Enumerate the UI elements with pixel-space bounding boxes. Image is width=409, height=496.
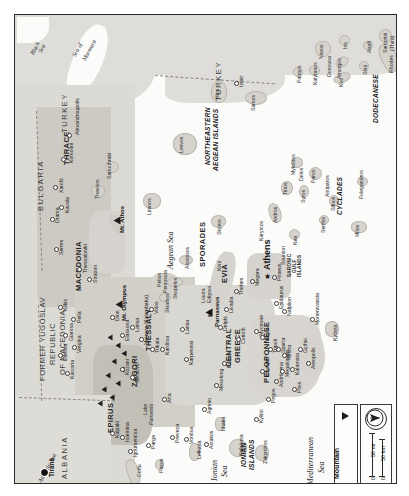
island-label-andros: Andros xyxy=(273,207,278,223)
city-label-nafplion: Nafplion xyxy=(287,297,292,316)
island-label-limnos: Limnos xyxy=(147,198,152,215)
city-label-epidaurus: Epidaurus xyxy=(279,286,284,309)
island-label-paros: Paros xyxy=(311,169,316,183)
capital-dot-tirana xyxy=(41,469,48,476)
city-label-karditsa: Karditsa xyxy=(165,336,170,355)
city-dot-alexandroupolis xyxy=(67,133,72,138)
peak-label-mt-olympus: Mt. Olympus xyxy=(121,285,127,321)
island-label-kimi: Kimi xyxy=(217,261,222,271)
island-label-kalymnos: Kalymnos xyxy=(313,62,318,85)
island-label-serifos: Serifos xyxy=(321,217,326,233)
city-label-kilkis: Kilkis xyxy=(63,299,68,311)
city-label-stratoni: Stratoni xyxy=(93,265,98,283)
city-label-edessa: Edessa xyxy=(63,344,68,361)
city-label-ioannina: Ioannina xyxy=(125,422,130,442)
city-label-astakos: Astakos xyxy=(209,431,214,449)
city-label-ithaka: Ithaka xyxy=(221,417,226,431)
island-label-skopelos: Skopelos xyxy=(173,278,178,299)
city-label-athens: Athens xyxy=(263,239,272,270)
city-label-monemvassia: Monemvassia xyxy=(315,293,320,325)
city-label-gythio: Gythio xyxy=(303,338,308,353)
region-label-ne-aegean-2: AEGEAN ISLANDS xyxy=(213,109,220,171)
island-label-skiathos: Skiathos xyxy=(165,293,170,313)
island-label-sifnos: Sifnos xyxy=(331,197,336,211)
island-label-patmos: Patmos xyxy=(297,65,302,83)
mountain-pindus-icon-10 xyxy=(98,401,103,407)
city-label-piraeus: Piraeus xyxy=(277,263,282,281)
city-label-elassona: Elassona xyxy=(125,320,130,341)
water-label-ionian-sea-1: Ionian xyxy=(211,460,219,481)
city-label-igoumenitsa: Igoumenitsa xyxy=(133,429,138,457)
city-label-giantsa: Giantsa xyxy=(69,323,74,341)
city-label-zakynthos: Zakynthos xyxy=(263,440,268,464)
city-label-lefkada: Lefkada xyxy=(197,441,202,459)
island-label-thira: (Thira) xyxy=(390,36,395,51)
country-label-bulgaria: BULGARIA xyxy=(37,160,45,211)
city-label-olympia: Olympia xyxy=(265,357,270,376)
city-label-kastoria: Kastoria xyxy=(70,360,75,379)
mountain-pindus-icon-2 xyxy=(116,343,121,349)
peak-label-mt-athos: Mt. Athos xyxy=(119,206,125,233)
city-label-kavala: Kavala xyxy=(65,197,70,213)
city-label-mesolong: Mesolong xyxy=(219,369,224,392)
scale-label-km: 50 km xyxy=(380,446,386,461)
city-label-kyllini: Kyllini xyxy=(259,409,264,423)
island-label-samothraki: Samothraki xyxy=(107,153,112,179)
capital-star-athens: ★ xyxy=(264,273,271,280)
city-label-lamia: Lamia xyxy=(185,320,190,334)
city-label-thebes: Thebes xyxy=(239,278,244,295)
island-label-folegandros: Folegandros xyxy=(359,170,364,199)
country-label-albania: ALBANIA xyxy=(61,436,69,479)
region-label-saronic-3: ISLANDS xyxy=(298,255,303,277)
city-label-thessaloniki: Thessaloniki xyxy=(83,244,88,273)
island-label-tinos: Tinos xyxy=(283,183,288,196)
island-label-amorgos: Amorgos xyxy=(337,58,342,79)
city-label-corinth: Corinth xyxy=(241,327,246,344)
island-label-anafi: Anafi xyxy=(367,41,372,53)
water-label-aegean-sea: Aegean Sea xyxy=(167,231,175,269)
island-label-paxos: Paxos xyxy=(159,459,164,473)
city-label-parga: Parga xyxy=(151,435,156,449)
island-label-mykonos: Mykonos xyxy=(291,154,296,175)
island-label-hios: Hios xyxy=(215,89,220,99)
city-dot-komotini xyxy=(61,157,66,162)
island-label-kos: Kos xyxy=(339,78,344,87)
island-label-donousa: Donousa xyxy=(327,56,332,77)
island-label-syros: Syros xyxy=(301,190,306,203)
city-label-xanthi: Xanthi xyxy=(59,178,64,193)
region-label-ne-aegean-1: NORTHEASTERN xyxy=(205,107,212,165)
city-label-pirgos: Pirgos xyxy=(271,388,276,403)
scale-label-zero-mi: 0 xyxy=(370,477,376,480)
country-label-fyrom-line3: OF MACEDONIA xyxy=(59,310,67,375)
island-label-skyros: Skyros xyxy=(217,219,222,235)
lake-label-pamvotis-2: Pamvotis xyxy=(149,404,154,425)
city-label-agrinio: Agrinio xyxy=(207,398,212,414)
city-label-tirana: Tirana xyxy=(49,458,55,477)
legend-mountain-label: Mountain xyxy=(333,448,340,479)
city-label-drama: Drama xyxy=(55,207,60,223)
city-label-kefalonia: Kefalonia xyxy=(239,434,244,456)
mountain-pindus-icon-3 xyxy=(122,351,127,357)
city-label-patras: Patras xyxy=(227,353,232,368)
water-label-ionian-sea-2: Sea xyxy=(221,465,229,477)
island-label-santorini: Santorini xyxy=(383,33,388,53)
city-label-livadia: Livadia xyxy=(229,297,234,313)
water-label-mediterranean-2: Sea xyxy=(318,461,326,473)
mountain-pindus-icon-7 xyxy=(116,381,121,387)
north-arrow-icon xyxy=(365,408,387,430)
region-label-cyclades: CYCLADES xyxy=(337,177,344,215)
scale-label-mi: 50 mi xyxy=(370,444,376,457)
island-label-simi: Simi xyxy=(363,65,368,75)
country-label-turkey-north: TURKEY xyxy=(61,93,69,133)
city-label-sparta: Sparta xyxy=(281,338,286,353)
island-label-samos: Samos xyxy=(251,95,256,111)
city-label-serres: Serres xyxy=(59,240,64,255)
mountain-pindus-icon-8 xyxy=(102,387,107,393)
island-label-ios: Ios xyxy=(343,42,348,49)
city-label-mistra: Mistra xyxy=(287,345,292,359)
city-label-alexandroupolis: Alexandroupolis xyxy=(75,98,80,135)
region-label-ionian-islands-2: ISLANDS xyxy=(249,439,256,470)
city-label-kythira: Kythira xyxy=(333,325,338,341)
island-label-peninsula: Peninsula xyxy=(163,270,168,293)
city-label-meteora: Meteora (Kalambaka) xyxy=(144,295,149,345)
